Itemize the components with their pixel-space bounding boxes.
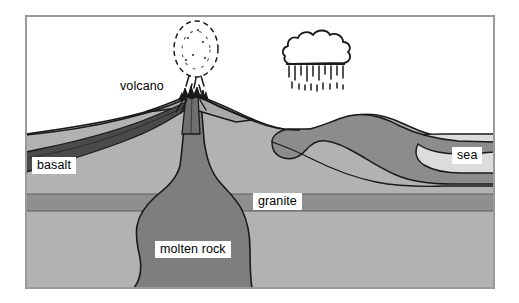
label-molten-rock: molten rock [155, 241, 231, 258]
diagram-content [26, 16, 494, 288]
diagram-canvas [0, 0, 519, 303]
ash-plume-oval [174, 21, 218, 77]
label-basalt: basalt [32, 157, 76, 174]
label-volcano: volcano [120, 79, 164, 93]
geology-cross-section-diagram: volcano basalt granite sea molten rock [0, 0, 519, 303]
label-sea: sea [452, 147, 482, 164]
label-granite: granite [253, 193, 302, 210]
